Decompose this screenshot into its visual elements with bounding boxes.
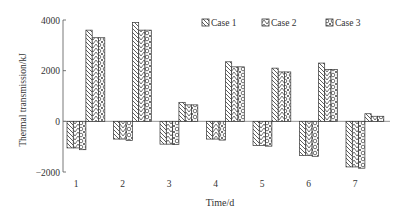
bar-positive-case-2 <box>278 72 284 121</box>
bar-negative-case-3 <box>173 121 179 144</box>
bar-negative-case-1 <box>207 121 213 139</box>
bar-positive-case-1 <box>132 23 138 122</box>
bar-positive-case-3 <box>378 116 384 121</box>
bar-positive-case-2 <box>185 105 191 121</box>
bars <box>67 23 384 169</box>
x-tick-label: 6 <box>306 179 311 189</box>
bar-negative-case-2 <box>73 121 79 148</box>
bar-positive-case-3 <box>285 72 291 121</box>
bar-negative-case-1 <box>160 121 166 144</box>
y-tick-label: 4000 <box>41 16 60 26</box>
bar-positive-case-3 <box>145 30 151 121</box>
legend-label: Case 2 <box>271 18 297 28</box>
bar-positive-case-2 <box>371 116 377 121</box>
bar-negative-case-1 <box>67 121 73 148</box>
bar-negative-case-3 <box>126 121 132 140</box>
bar-negative-case-3 <box>80 121 86 149</box>
bar-negative-case-2 <box>352 121 358 167</box>
bar-positive-case-1 <box>179 102 185 121</box>
bar-negative-case-1 <box>253 121 259 145</box>
chart: −20000200040001234567 Case 1Case 2Case 3… <box>0 0 406 213</box>
legend-swatch <box>262 19 269 26</box>
bar-positive-case-3 <box>192 105 198 121</box>
bar-positive-case-2 <box>92 38 98 122</box>
bar-positive-case-1 <box>318 63 324 121</box>
bar-positive-case-1 <box>272 68 278 121</box>
bar-negative-case-2 <box>213 121 219 139</box>
x-tick-label: 7 <box>353 179 358 189</box>
bar-negative-case-2 <box>166 121 172 144</box>
bar-positive-case-3 <box>238 67 244 121</box>
bar-negative-case-3 <box>266 121 272 146</box>
bar-positive-case-2 <box>232 67 238 121</box>
bar-negative-case-1 <box>114 121 120 139</box>
legend-label: Case 1 <box>211 18 237 28</box>
bar-positive-case-2 <box>139 30 145 121</box>
bar-positive-case-1 <box>365 114 371 122</box>
bar-positive-case-3 <box>99 38 105 122</box>
x-tick-label: 5 <box>260 179 265 189</box>
legend-swatch <box>326 19 333 26</box>
y-tick-label: −2000 <box>36 168 61 178</box>
x-tick-label: 4 <box>213 179 218 189</box>
bar-negative-case-2 <box>120 121 126 139</box>
bar-negative-case-1 <box>346 121 352 167</box>
legend-label: Case 3 <box>335 18 361 28</box>
x-tick-label: 1 <box>74 179 79 189</box>
bar-positive-case-1 <box>225 62 231 122</box>
bar-positive-case-3 <box>331 69 337 121</box>
y-axis-label: Thermal transmission/kJ <box>18 53 28 147</box>
x-tick-label: 2 <box>120 179 125 189</box>
bar-negative-case-2 <box>259 121 265 145</box>
bar-negative-case-2 <box>306 121 312 155</box>
legend: Case 1Case 2Case 3 <box>202 18 361 28</box>
bar-negative-case-3 <box>359 121 365 168</box>
y-tick-label: 2000 <box>41 66 60 76</box>
x-axis-label: Time/d <box>206 197 235 208</box>
bar-negative-case-3 <box>312 121 318 156</box>
bar-positive-case-1 <box>86 30 92 121</box>
x-tick-label: 3 <box>167 179 172 189</box>
bar-positive-case-2 <box>325 69 331 121</box>
bar-negative-case-1 <box>300 121 306 155</box>
bar-negative-case-3 <box>219 121 225 140</box>
legend-swatch <box>202 19 209 26</box>
y-tick-label: 0 <box>55 117 60 127</box>
